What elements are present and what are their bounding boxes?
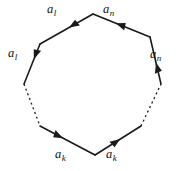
edge-label-right: an xyxy=(150,48,161,63)
cycle-polygon-svg xyxy=(0,0,180,171)
arrowhead-bottom-left xyxy=(52,130,65,142)
edge-label-top-left: al xyxy=(47,3,56,18)
arrowhead-left xyxy=(30,48,41,61)
label-subscript: k xyxy=(113,153,117,163)
label-subscript: l xyxy=(54,8,57,18)
edge-label-left: al xyxy=(8,47,17,62)
label-base: a xyxy=(47,2,53,16)
arrowhead-top-left xyxy=(67,19,80,31)
dashed-edges xyxy=(24,84,161,126)
label-base: a xyxy=(55,147,61,161)
label-subscript: k xyxy=(62,153,66,163)
dashed-edge-lower-left xyxy=(24,84,40,126)
label-subscript: n xyxy=(157,53,162,63)
label-subscript: n xyxy=(110,8,115,18)
edge-label-bottom-right: ak xyxy=(106,148,117,163)
label-base: a xyxy=(103,2,109,16)
arrowhead-top-right xyxy=(114,20,127,31)
edge-top-left xyxy=(40,14,93,44)
edge-label-top-right: an xyxy=(103,3,114,18)
edge-left xyxy=(24,44,40,84)
arrowhead-right xyxy=(152,62,162,74)
dashed-edge-lower-right xyxy=(141,84,161,126)
label-subscript: l xyxy=(15,52,18,62)
solid-edges xyxy=(24,14,161,155)
figure-container: al an al an ak ak xyxy=(0,0,180,171)
label-base: a xyxy=(8,46,14,60)
edge-bottom-left xyxy=(40,126,95,155)
label-base: a xyxy=(150,47,156,61)
label-base: a xyxy=(106,147,112,161)
edge-label-bottom-left: ak xyxy=(55,148,66,163)
